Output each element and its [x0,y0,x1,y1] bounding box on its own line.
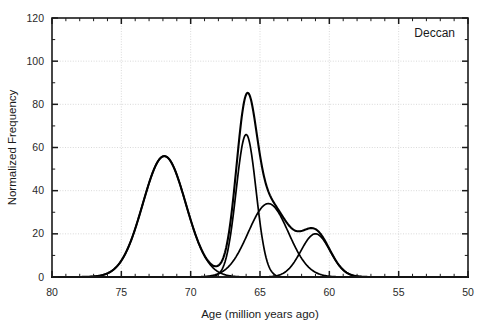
y-axis-tick-label: 100 [26,55,44,67]
y-axis-tick-label: 20 [32,227,44,239]
x-axis-tick-label: 50 [462,286,474,298]
gridlines-group [52,18,468,277]
x-axis-title: Age (million years ago) [201,308,319,320]
x-axis-tick-label: 60 [323,286,335,298]
x-axis-tick-label: 70 [185,286,197,298]
x-axis-tick-label: 75 [115,286,127,298]
y-axis-tick-label: 80 [32,98,44,110]
y-axis-title: Normalized Frequency [6,89,18,205]
labels-group: 80757065605550020406080100120Age (millio… [6,12,474,320]
figure-container: 80757065605550020406080100120Age (millio… [0,0,484,334]
y-axis-tick-label: 60 [32,141,44,153]
panel-label-deccan: Deccan [414,26,455,40]
normalized-frequency-chart: 80757065605550020406080100120Age (millio… [0,0,484,334]
x-axis-tick-label: 55 [393,286,405,298]
x-axis-tick-label: 65 [254,286,266,298]
y-axis-tick-label: 40 [32,184,44,196]
y-axis-tick-label: 0 [38,271,44,283]
x-axis-tick-label: 80 [46,286,58,298]
y-axis-tick-label: 120 [26,12,44,24]
